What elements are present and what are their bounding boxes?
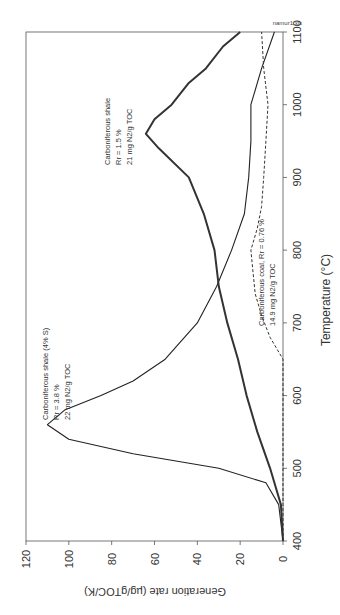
svg-text:Carboniferous coal, Rr = 0.76: Carboniferous coal, Rr = 0.76 % xyxy=(257,219,266,326)
x-tick-label: 400 xyxy=(291,532,303,550)
x-tick-label: 500 xyxy=(291,459,303,477)
generation-rate-chart: 4005006007008009001000110002040608010012… xyxy=(0,0,340,615)
y-tick-label: 60 xyxy=(149,553,161,565)
data-series xyxy=(47,32,283,541)
y-axis-label: Generation rate (µg/gTOC/K) xyxy=(84,586,226,598)
annotation-shale-15: Carboniferous shale Rr = 1.5 % 21 mg N2/… xyxy=(103,98,134,165)
series-line-2 xyxy=(251,32,283,541)
y-tick-label: 80 xyxy=(106,553,118,565)
svg-text:Carboniferous shale: Carboniferous shale xyxy=(103,98,112,165)
y-tick-label: 120 xyxy=(20,550,32,568)
svg-text:22 mg N2/g TOC: 22 mg N2/g TOC xyxy=(63,363,72,420)
series-line-0 xyxy=(47,32,283,541)
svg-text:Carboniferous shale (4% S): Carboniferous shale (4% S) xyxy=(41,327,50,420)
svg-text:Rr = 1.5 %: Rr = 1.5 % xyxy=(114,129,123,165)
x-tick-label: 700 xyxy=(291,314,303,332)
x-tick-label: 600 xyxy=(291,386,303,404)
svg-text:Rr = 3.8 %: Rr = 3.8 % xyxy=(52,384,61,420)
x-tick-label: 1000 xyxy=(291,92,303,116)
x-axis-label: Temperature (°C) xyxy=(319,254,333,346)
svg-text:14.9 mg N2/g TOC: 14.9 mg N2/g TOC xyxy=(268,263,277,326)
x-tick-label: 800 xyxy=(291,241,303,259)
y-tick-label: 40 xyxy=(191,553,203,565)
y-tick-label: 20 xyxy=(234,553,246,565)
svg-text:21 mg N2/g TOC: 21 mg N2/g TOC xyxy=(125,108,134,165)
annotation-shale-4s: Carboniferous shale (4% S) Rr = 3.8 % 22… xyxy=(41,327,72,420)
y-tick-label: 100 xyxy=(63,550,75,568)
plot-frame xyxy=(26,32,283,541)
source-filename: namur1.xls xyxy=(273,20,302,26)
x-tick-label: 900 xyxy=(291,168,303,186)
annotation-coal: Carboniferous coal, Rr = 0.76 % 14.9 mg … xyxy=(257,219,277,326)
y-tick-label: 0 xyxy=(277,556,289,562)
